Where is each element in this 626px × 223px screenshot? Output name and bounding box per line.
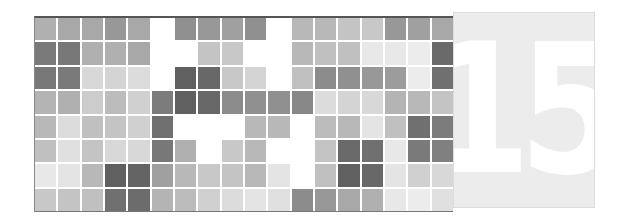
- mosaic-cell: [432, 42, 453, 64]
- mosaic-cell: [292, 140, 313, 162]
- mosaic-cell: [128, 140, 149, 162]
- mosaic-cell: [268, 164, 289, 186]
- mosaic-cell: [82, 18, 103, 40]
- mosaic-cell: [58, 140, 79, 162]
- mosaic-cell: [222, 42, 243, 64]
- mosaic-cell: [292, 91, 313, 113]
- mosaic-cell: [245, 42, 266, 64]
- mosaic-cell: [105, 42, 126, 64]
- mosaic-cell: [175, 18, 196, 40]
- mosaic-cell: [245, 164, 266, 186]
- mosaic-cell: [82, 91, 103, 113]
- mosaic-cell: [315, 42, 336, 64]
- mosaic-cell: [245, 189, 266, 211]
- mosaic-cell: [408, 67, 429, 89]
- mosaic-cell: [128, 42, 149, 64]
- mosaic-cell: [58, 42, 79, 64]
- mosaic-cell: [385, 164, 406, 186]
- mosaic-cell: [315, 67, 336, 89]
- mosaic-cell: [35, 140, 56, 162]
- mosaic-cell: [222, 164, 243, 186]
- mosaic-cell: [58, 91, 79, 113]
- mosaic-cell: [315, 189, 336, 211]
- mosaic-cell: [222, 189, 243, 211]
- mosaic-cell: [128, 189, 149, 211]
- mosaic-cell: [268, 140, 289, 162]
- mosaic-cell: [408, 91, 429, 113]
- mosaic-cell: [432, 140, 453, 162]
- mosaic-cell: [245, 67, 266, 89]
- mosaic-cell: [198, 42, 219, 64]
- mosaic-cell: [175, 164, 196, 186]
- mosaic-cell: [268, 116, 289, 138]
- mosaic-cell: [362, 140, 383, 162]
- mosaic-cell: [268, 42, 289, 64]
- mosaic-cell: [385, 189, 406, 211]
- mosaic-cell: [432, 189, 453, 211]
- mosaic-cell: [362, 67, 383, 89]
- mosaic-cell: [408, 18, 429, 40]
- mosaic-cell: [105, 67, 126, 89]
- mosaic-cell: [198, 140, 219, 162]
- mosaic-cell: [385, 140, 406, 162]
- mosaic-cell: [128, 91, 149, 113]
- mosaic-cell: [268, 67, 289, 89]
- mosaic-cell: [292, 189, 313, 211]
- mosaic-cell: [82, 42, 103, 64]
- mosaic-cell: [35, 42, 56, 64]
- mosaic-cell: [128, 67, 149, 89]
- mosaic-cell: [58, 164, 79, 186]
- mosaic-cell: [408, 116, 429, 138]
- mosaic-cell: [245, 140, 266, 162]
- mosaic-cell: [105, 189, 126, 211]
- mosaic-cell: [338, 189, 359, 211]
- mosaic-cell: [82, 164, 103, 186]
- mosaic-cell: [432, 18, 453, 40]
- mosaic-cell: [292, 164, 313, 186]
- mosaic-cell: [292, 18, 313, 40]
- mosaic-cell: [198, 164, 219, 186]
- mosaic-cell: [105, 18, 126, 40]
- mosaic-cell: [35, 189, 56, 211]
- mosaic-cell: [408, 140, 429, 162]
- mosaic-cell: [245, 91, 266, 113]
- mosaic-cell: [362, 42, 383, 64]
- mosaic-cell: [362, 116, 383, 138]
- mosaic-cell: [152, 164, 173, 186]
- mosaic-cell: [338, 140, 359, 162]
- mosaic-cell: [268, 18, 289, 40]
- grayscale-mosaic-grid: [34, 16, 453, 212]
- mosaic-cell: [268, 189, 289, 211]
- mosaic-cell: [152, 116, 173, 138]
- mosaic-cell: [82, 116, 103, 138]
- mosaic-cell: [222, 18, 243, 40]
- mosaic-cell: [315, 140, 336, 162]
- mosaic-cell: [105, 116, 126, 138]
- mosaic-cell: [198, 18, 219, 40]
- mosaic-cell: [58, 67, 79, 89]
- mosaic-cell: [292, 67, 313, 89]
- mosaic-cell: [82, 67, 103, 89]
- mosaic-cell: [128, 116, 149, 138]
- mosaic-cell: [128, 18, 149, 40]
- mosaic-cell: [128, 164, 149, 186]
- mosaic-cell: [222, 67, 243, 89]
- mosaic-cell: [292, 42, 313, 64]
- mosaic-cell: [245, 18, 266, 40]
- mosaic-cell: [338, 164, 359, 186]
- mosaic-cell: [408, 42, 429, 64]
- mosaic-cell: [198, 116, 219, 138]
- big-number-label: 15: [453, 20, 595, 200]
- mosaic-cell: [432, 164, 453, 186]
- mosaic-cell: [175, 42, 196, 64]
- mosaic-cell: [58, 116, 79, 138]
- mosaic-cell: [152, 42, 173, 64]
- mosaic-cell: [152, 18, 173, 40]
- mosaic-cell: [175, 91, 196, 113]
- mosaic-cell: [338, 67, 359, 89]
- mosaic-cell: [58, 189, 79, 211]
- mosaic-cell: [198, 67, 219, 89]
- mosaic-cell: [35, 91, 56, 113]
- mosaic-cell: [105, 164, 126, 186]
- mosaic-cell: [432, 67, 453, 89]
